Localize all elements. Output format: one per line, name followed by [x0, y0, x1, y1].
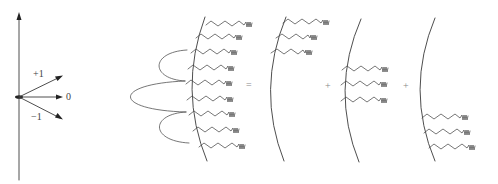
lipid-tail — [424, 129, 470, 135]
lipid-tails — [422, 114, 475, 150]
plus-sign-2: + — [403, 81, 409, 91]
vector-plus-one — [19, 77, 60, 97]
membrane-curve — [270, 17, 286, 161]
lobe-bottom — [159, 112, 189, 143]
lipid-tail — [199, 143, 245, 149]
lipid-tails — [341, 66, 388, 103]
lipid-tail — [283, 19, 329, 25]
axis-arrowhead-icon — [17, 12, 22, 20]
panel-top-component — [270, 17, 329, 161]
lipid-tail — [191, 49, 237, 55]
membrane-curve — [420, 18, 435, 161]
label-plus-one: +1 — [33, 69, 44, 79]
lipid-tail — [341, 97, 387, 103]
panel-middle-component — [341, 19, 388, 162]
panel-bottom-component — [420, 18, 475, 161]
lipid-tail — [342, 66, 388, 72]
vector-minus-one-arrowhead-icon — [55, 113, 63, 120]
membrane-curve — [345, 19, 361, 162]
membrane-curve — [192, 17, 207, 161]
label-zero: 0 — [66, 92, 71, 102]
lipid-tail — [429, 144, 475, 150]
vector-zero-arrowhead-icon — [56, 95, 63, 100]
lipid-tail — [206, 21, 252, 27]
lobe-middle — [130, 81, 186, 112]
lipid-tail — [422, 114, 468, 120]
lipid-tail — [189, 111, 235, 117]
vector-plus-one-arrowhead-icon — [55, 76, 63, 82]
lipid-tail — [276, 34, 317, 40]
label-minus-one: −1 — [31, 112, 42, 122]
orientation-vector-diagram — [15, 12, 63, 180]
lipid-tail — [341, 81, 387, 87]
lipid-tails — [186, 21, 252, 149]
lobe-top — [159, 50, 187, 81]
lipid-tail — [193, 127, 239, 133]
lipid-tail — [187, 96, 233, 102]
lipid-tail — [271, 49, 312, 55]
plus-sign-1: + — [325, 81, 331, 91]
lipid-tails — [271, 19, 329, 55]
membrane-decomposition-figure — [0, 0, 498, 184]
lipid-tail — [188, 65, 234, 71]
equals-sign: = — [246, 80, 252, 90]
panel-full-membrane — [130, 17, 252, 161]
lipid-tail — [196, 34, 242, 40]
lipid-tail — [186, 80, 232, 86]
